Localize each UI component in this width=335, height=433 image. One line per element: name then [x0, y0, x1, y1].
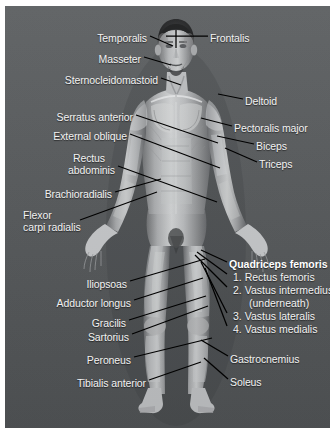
- label-quadriceps-femoris-title: Quadriceps femoris: [229, 258, 328, 270]
- label-sartorius: Sartorius: [88, 331, 129, 343]
- label-brachioradialis: Brachioradialis: [45, 188, 112, 200]
- label-biceps: Biceps: [256, 140, 287, 152]
- label-sternocleidomastoid: Sternocleidomastoid: [65, 74, 158, 86]
- label-gastrocnemius: Gastrocnemius: [230, 353, 299, 365]
- label-rectus-abdominis-2: abdominis: [68, 164, 115, 176]
- label-masseter: Masseter: [99, 53, 141, 65]
- label-temporalis: Temporalis: [97, 32, 147, 44]
- label-vastus-lateralis: 3. Vastus lateralis: [233, 310, 315, 322]
- label-flexor-carpi-1: Flexor: [23, 209, 52, 221]
- label-frontalis: Frontalis: [210, 32, 249, 44]
- label-tibialis-anterior: Tibialis anterior: [77, 377, 146, 389]
- label-vastus-intermedius: 2. Vastus intermedius: [233, 284, 330, 296]
- label-gracilis: Gracilis: [92, 317, 126, 329]
- label-vastus-medialis: 4. Vastus medialis: [233, 323, 317, 335]
- label-serratus-anterior: Serratus anterior: [56, 111, 133, 123]
- label-iliopsoas: Iliopsoas: [86, 278, 127, 290]
- label-vastus-intermedius-note: (underneath): [249, 297, 309, 309]
- label-adductor-longus: Adductor longus: [57, 297, 131, 309]
- label-pectoralis-major: Pectoralis major: [234, 122, 308, 134]
- label-rectus-femoris: 1. Rectus femoris: [233, 271, 315, 283]
- label-rectus-abdominis-1: Rectus: [73, 152, 105, 164]
- label-deltoid: Deltoid: [245, 95, 277, 107]
- label-flexor-carpi-2: carpi radialis: [23, 221, 81, 233]
- label-soleus: Soleus: [230, 376, 262, 388]
- label-external-oblique: External oblique: [53, 130, 127, 142]
- anatomy-figure-panel: TemporalisMasseterSternocleidomastoidSer…: [5, 6, 330, 428]
- label-peroneus: Peroneus: [87, 354, 131, 366]
- label-triceps: Triceps: [259, 158, 292, 170]
